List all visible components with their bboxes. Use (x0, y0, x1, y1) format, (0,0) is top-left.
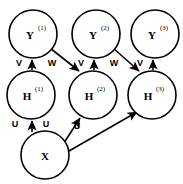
node-superscript-h1: (1) (35, 85, 44, 93)
edge-label-u-3: U (74, 121, 81, 131)
node-superscript-h3: (3) (156, 85, 165, 93)
edge-label-u-1: U (12, 119, 19, 129)
node-x[interactable]: X (21, 131, 69, 179)
edge-label-u-2: U (43, 119, 50, 129)
graph-svg: V V V W W U U U Y (1) Y (2) (0, 0, 183, 184)
edge-label-v-3: V (137, 58, 143, 68)
edge-label-w-1: W (48, 58, 57, 68)
node-label-x: X (41, 150, 49, 162)
edge-label-v-1: V (16, 58, 22, 68)
diagram-canvas: V V V W W U U U Y (1) Y (2) (0, 0, 183, 184)
node-y1[interactable]: Y (1) (9, 10, 57, 58)
node-h2[interactable]: H (2) (69, 71, 117, 119)
node-y3[interactable]: Y (3) (131, 10, 179, 58)
node-superscript-y3: (3) (160, 24, 169, 32)
edge-label-w-2: W (110, 58, 119, 68)
node-label-y2: Y (89, 29, 97, 41)
edge-label-v-2: V (78, 58, 84, 68)
node-h3[interactable]: H (3) (128, 71, 176, 119)
node-label-h3: H (144, 90, 153, 102)
node-superscript-h2: (2) (97, 85, 106, 93)
node-superscript-y1: (1) (38, 24, 47, 32)
node-label-h1: H (23, 90, 32, 102)
node-label-y3: Y (148, 29, 156, 41)
node-superscript-y2: (2) (101, 24, 110, 32)
node-h1[interactable]: H (1) (7, 71, 55, 119)
node-y2[interactable]: Y (2) (72, 10, 120, 58)
nodes-group: Y (1) Y (2) Y (3) H (1) (7, 10, 179, 179)
node-label-y1: Y (26, 29, 34, 41)
node-label-h2: H (85, 90, 94, 102)
